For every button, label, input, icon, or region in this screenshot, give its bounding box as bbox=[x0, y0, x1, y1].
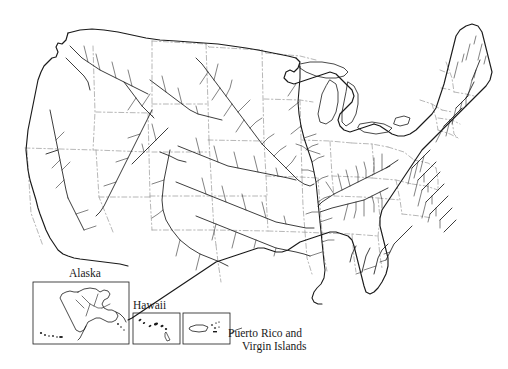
puerto-rico-inset-box bbox=[183, 313, 230, 344]
alaska-inset-label: Alaska bbox=[69, 267, 101, 279]
alaska-inset-box bbox=[33, 282, 129, 344]
puerto-rico-label-line-2: Virgin Islands bbox=[228, 340, 307, 353]
alaska-coastline bbox=[60, 288, 126, 340]
state-boundaries bbox=[25, 41, 474, 282]
hawaii-islands bbox=[138, 318, 167, 330]
hawaii-inset bbox=[133, 313, 180, 344]
hawaii-inset-label: Hawaii bbox=[133, 299, 166, 311]
puerto-rico-label-line-1: Puerto Rico and bbox=[228, 327, 307, 340]
puerto-rico-inset-label: Puerto Rico and Virgin Islands bbox=[228, 327, 307, 353]
great-lakes bbox=[300, 62, 410, 134]
hawaii-big-island bbox=[165, 332, 170, 341]
tributary-rivers bbox=[52, 36, 486, 274]
alaska-inset bbox=[33, 282, 129, 344]
us-rivers-map bbox=[0, 0, 508, 369]
puerto-rico-island bbox=[189, 325, 208, 332]
map-canvas: Alaska Hawaii Puerto Rico and Virgin Isl… bbox=[0, 0, 508, 369]
virgin-islands bbox=[211, 321, 220, 332]
alaska-rivers bbox=[76, 294, 110, 316]
hawaii-inset-box bbox=[133, 313, 180, 344]
